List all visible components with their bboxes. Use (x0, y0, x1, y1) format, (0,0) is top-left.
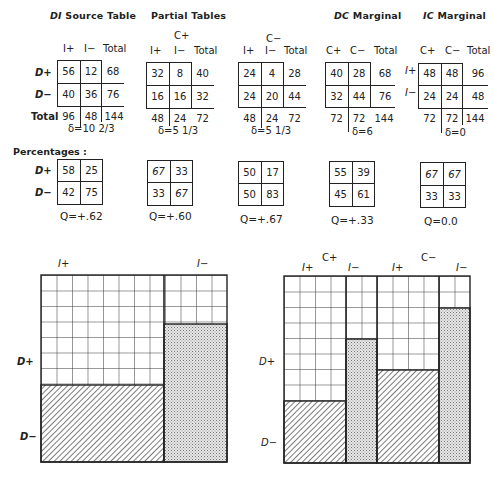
i-plus-d-minus-hatch (41, 385, 164, 462)
i-minus-d-minus-stipple (164, 324, 227, 462)
right-area-diagram (284, 276, 470, 463)
area-diagrams (0, 0, 494, 483)
right-col-label: I+ (392, 262, 403, 273)
left-row-label-d-minus: D− (20, 431, 37, 442)
right-group-label-c-minus: C− (421, 252, 436, 263)
right-col-label: I+ (302, 262, 313, 273)
right-row-label-d-minus: D− (261, 437, 277, 448)
right-group-label-c-plus: C+ (322, 252, 337, 263)
left-col-label-i-minus: I− (197, 258, 208, 269)
c-plus-i-minus-stipple (346, 339, 377, 463)
left-row-label-d-plus: D+ (17, 356, 34, 367)
right-row-label-d-plus: D+ (259, 356, 275, 367)
c-minus-i-minus-stipple (439, 308, 470, 463)
c-plus-i-plus-hatch (284, 401, 346, 463)
right-col-label: I− (456, 262, 467, 273)
right-col-label: I− (348, 262, 359, 273)
left-col-label-i-plus: I+ (58, 258, 69, 269)
c-minus-i-plus-hatch (377, 370, 439, 463)
left-area-diagram (41, 275, 227, 462)
